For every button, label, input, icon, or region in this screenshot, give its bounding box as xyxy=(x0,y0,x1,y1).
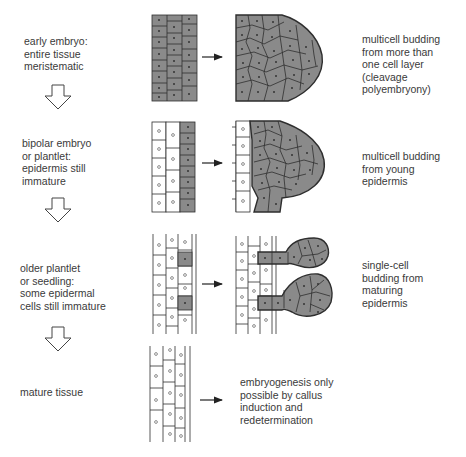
single-cell-buds xyxy=(236,236,332,334)
mature-tissue xyxy=(150,346,190,442)
meristematic-tissue xyxy=(152,15,197,101)
maturing-epidermis-tissue xyxy=(153,234,196,334)
epidermal-multicell-bud xyxy=(232,121,324,212)
tissue-illustrations xyxy=(0,0,466,457)
multicell-bud xyxy=(236,15,322,101)
young-epidermis-tissue xyxy=(152,122,195,212)
